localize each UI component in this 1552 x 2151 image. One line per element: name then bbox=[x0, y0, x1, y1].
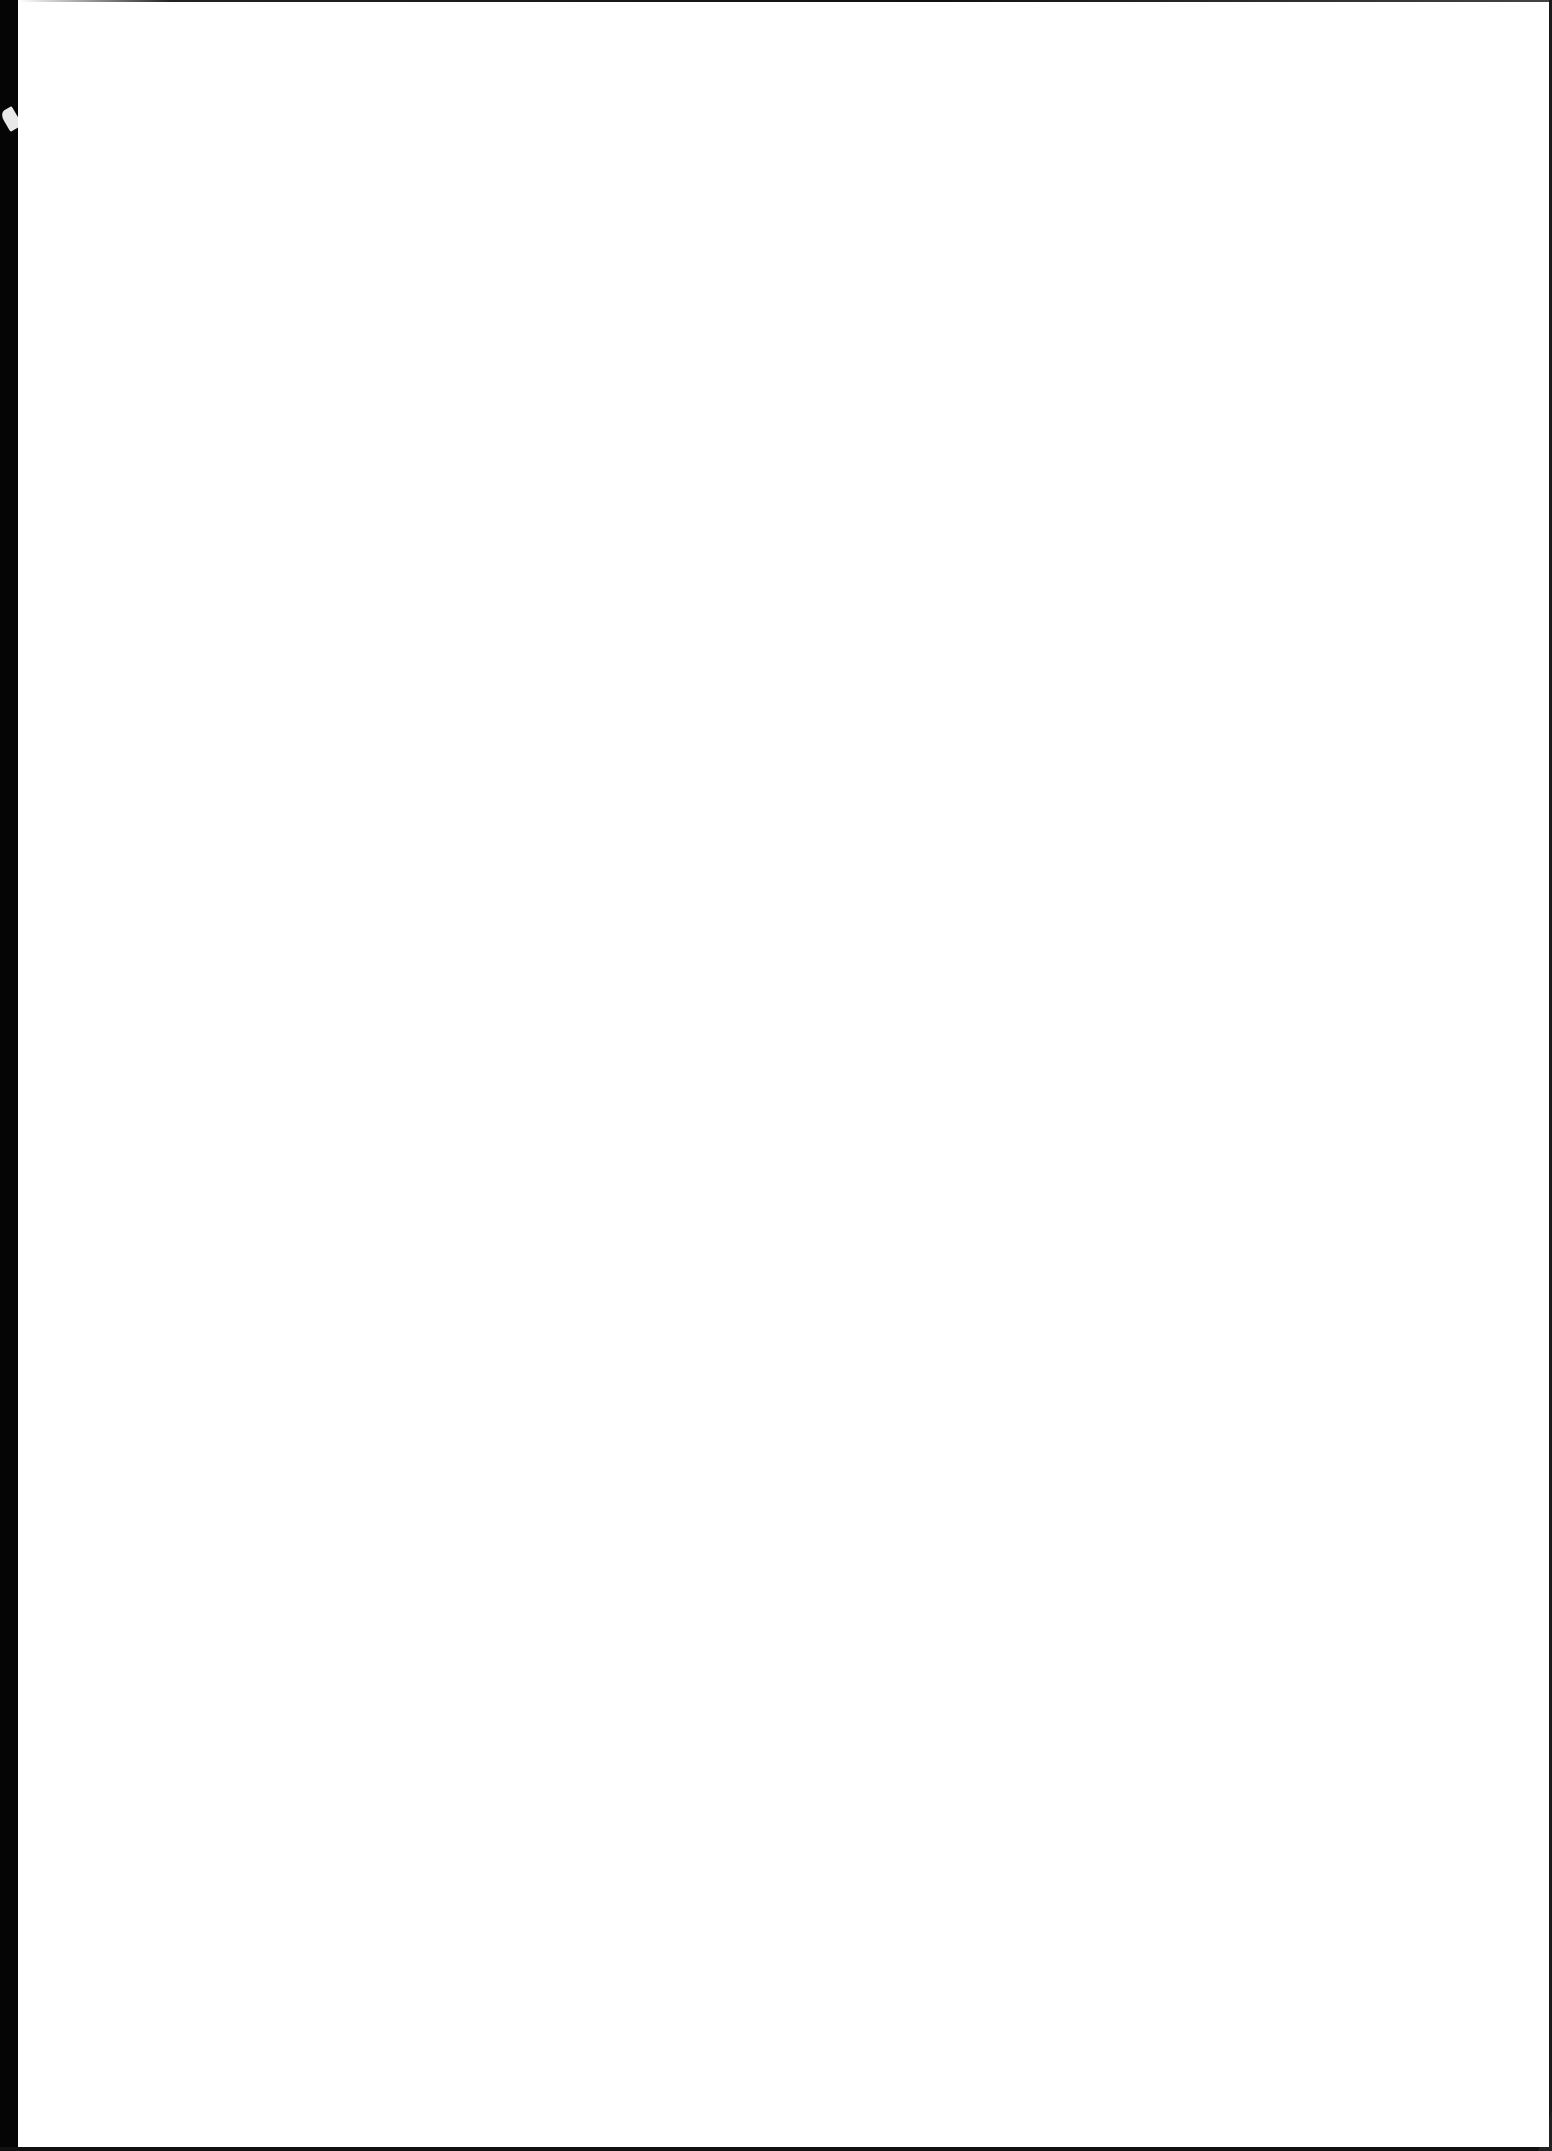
scan-border-bottom bbox=[0, 2147, 1552, 2151]
scan-border-left bbox=[0, 0, 18, 2151]
page-content bbox=[18, 2, 1549, 2147]
blank-page bbox=[18, 2, 1549, 2147]
